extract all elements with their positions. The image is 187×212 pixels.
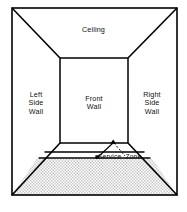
label-ceiling: Ceiling [0, 26, 187, 34]
floor-shaded-area [12, 159, 177, 195]
court-diagram: Ceiling Left Side Wall Right Side Wall F… [0, 0, 187, 212]
label-left-side-wall: Left Side Wall [14, 91, 58, 116]
service-zone-apex-marker [110, 140, 116, 144]
label-right-side-wall: Right Side Wall [130, 91, 174, 116]
label-service-zone: Service Zone [98, 153, 154, 161]
label-front-wall: Front Wall [62, 95, 126, 112]
